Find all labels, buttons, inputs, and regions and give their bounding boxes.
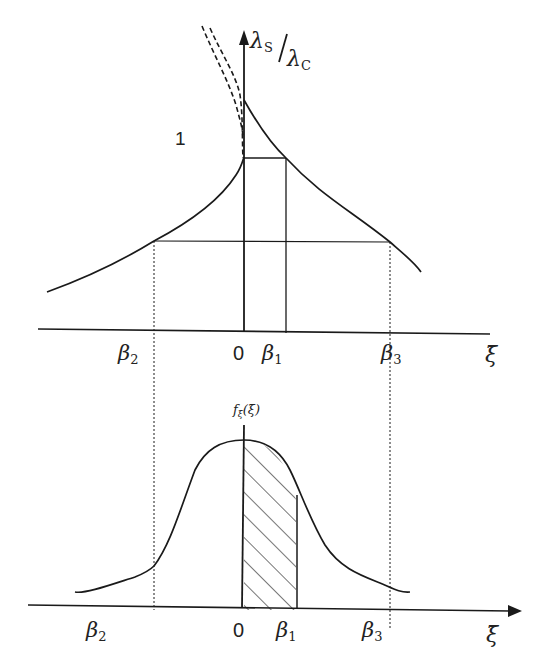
top-x-axis <box>38 329 490 334</box>
bottom-y-axis <box>242 425 244 608</box>
top-y-axis-label-den: λC <box>286 46 311 73</box>
top-y-axis-arrow-icon <box>239 30 249 45</box>
top-y-axis-label-num: λS <box>249 28 273 55</box>
left-rise-curve <box>47 157 244 292</box>
top-tick-beta3: β3 <box>380 341 401 367</box>
shaded-probability-region <box>244 430 298 610</box>
level-line-beta2-beta3 <box>154 241 390 242</box>
bottom-tick-beta3: β3 <box>361 618 382 644</box>
top-tick-zero: 0 <box>233 342 244 364</box>
bottom-plot: fξ̄(ξ̄) β2 0 β1 β3 ξ̄ <box>28 402 522 647</box>
bottom-tick-zero: 0 <box>233 619 244 641</box>
bottom-x-axis-label: ξ̄ <box>486 622 500 647</box>
fraction-slash <box>279 34 287 62</box>
bottom-y-axis-label: fξ̄(ξ̄) <box>232 402 260 419</box>
top-tick-beta2: β2 <box>117 341 138 367</box>
bottom-tick-beta1: β1 <box>275 618 296 644</box>
top-tick-beta1: β1 <box>261 341 282 367</box>
top-x-axis-label: ξ̄ <box>485 342 499 367</box>
curve-1-dashed-inner <box>210 28 243 158</box>
bottom-tick-beta2: β2 <box>85 618 106 644</box>
curve-1-label: 1 <box>175 128 186 149</box>
right-decay-curve <box>244 100 421 272</box>
bottom-x-axis-arrow-icon <box>508 605 522 617</box>
diagram-canvas: λS λC 1 β2 0 β1 β3 ξ̄ fξ̄(ξ̄) β2 0 β1 β3… <box>0 0 545 672</box>
